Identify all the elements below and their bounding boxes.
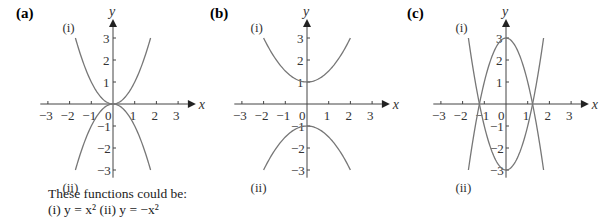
- y-axis-label: y: [107, 4, 116, 19]
- panel-label: (b): [210, 5, 228, 22]
- curve-label-ii: (ii): [251, 180, 267, 195]
- y-tick-label: 3: [297, 31, 304, 46]
- curve-label-i: (i): [62, 20, 74, 35]
- y-tick-label: 1: [297, 75, 304, 90]
- x-axis-label: x: [392, 97, 400, 112]
- y-tick-label: −3: [97, 163, 111, 178]
- panel-label: (a): [16, 5, 34, 22]
- x-tick-label: −2: [61, 108, 75, 123]
- x-axis-arrow-icon: [188, 100, 196, 108]
- y-axis-arrow-icon: [109, 19, 117, 27]
- y-tick-label: 2: [496, 53, 503, 68]
- y-tick-label: −2: [490, 141, 504, 156]
- y-tick-label: −1: [490, 119, 504, 134]
- x-tick-label: 3: [367, 108, 374, 123]
- y-tick-label: −1: [97, 119, 111, 134]
- y-axis-arrow-icon: [502, 19, 510, 27]
- x-tick-label: −3: [432, 108, 446, 123]
- y-axis-label: y: [500, 4, 509, 19]
- x-axis-arrow-icon: [581, 100, 589, 108]
- x-tick-label: −3: [233, 108, 247, 123]
- x-tick-label: 2: [345, 108, 352, 123]
- y-axis-label: y: [301, 4, 310, 19]
- y-tick-label: 3: [103, 31, 110, 46]
- x-tick-label: −3: [39, 108, 53, 123]
- caption-line-1: These functions could be:: [48, 186, 187, 202]
- y-tick-label: 1: [103, 75, 110, 90]
- x-axis-arrow-icon: [382, 100, 390, 108]
- y-tick-label: 2: [103, 53, 110, 68]
- x-tick-label: 1: [130, 108, 137, 123]
- x-tick-label: 3: [566, 108, 573, 123]
- x-tick-label: 2: [544, 108, 551, 123]
- y-tick-label: 1: [496, 75, 503, 90]
- y-tick-label: 3: [496, 31, 503, 46]
- y-tick-label: −3: [291, 163, 305, 178]
- curve-label-ii: (ii): [455, 180, 471, 195]
- curve-label-i: (i): [455, 20, 467, 35]
- caption-line-2: (i) y = x² (ii) y = −x²: [48, 202, 159, 218]
- y-axis-arrow-icon: [303, 19, 311, 27]
- x-tick-label: −2: [255, 108, 269, 123]
- x-tick-label: 1: [523, 108, 530, 123]
- x-tick-label: −1: [276, 108, 290, 123]
- x-tick-label: 1: [324, 108, 331, 123]
- x-tick-label: 3: [173, 108, 180, 123]
- y-tick-label: −3: [490, 163, 504, 178]
- y-tick-label: 2: [297, 53, 304, 68]
- curve-label-i: (i): [251, 20, 263, 35]
- panel-label: (c): [407, 5, 424, 22]
- y-tick-label: −2: [97, 141, 111, 156]
- x-axis-label: x: [591, 97, 599, 112]
- x-axis-label: x: [198, 97, 206, 112]
- x-tick-label: 2: [151, 108, 158, 123]
- y-tick-label: −2: [291, 141, 305, 156]
- x-tick-label: −2: [454, 108, 468, 123]
